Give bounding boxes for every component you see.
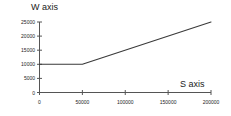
x-tick-label: 100000	[110, 99, 140, 105]
x-tick-label: 200000	[196, 99, 226, 105]
y-tick-label: 5000	[13, 75, 35, 81]
y-tick-label: 0	[13, 90, 35, 96]
y-tick-label: 25000	[13, 19, 35, 25]
y-tick-label: 15000	[13, 47, 35, 53]
y-axis	[37, 22, 42, 93]
y-tick-label: 10000	[13, 61, 35, 67]
x-tick-label: 50000	[67, 99, 97, 105]
y-tick-label: 20000	[13, 33, 35, 39]
line-chart: W axis S axis 0500010000150002000025000 …	[0, 0, 231, 116]
x-tick-label: 150000	[153, 99, 183, 105]
x-tick-label: 0	[25, 99, 55, 105]
data-series-line	[40, 22, 212, 64]
x-axis	[40, 90, 212, 95]
